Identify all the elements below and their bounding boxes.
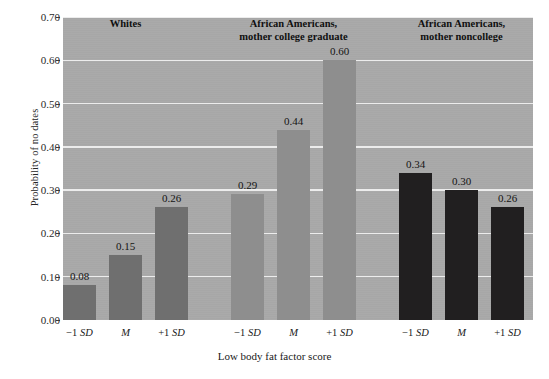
bar-value-label: 0.30 xyxy=(452,175,471,187)
bar xyxy=(491,207,524,320)
x-tick-label: +1 SD xyxy=(326,327,353,338)
y-tick-mark xyxy=(56,277,60,278)
bar xyxy=(277,130,310,320)
bar-value-label: 0.08 xyxy=(70,270,89,282)
bar-value-label: 0.34 xyxy=(406,158,425,170)
x-axis-title: Low body fat factor score xyxy=(0,350,549,362)
x-tick-label: M xyxy=(457,327,466,338)
bar xyxy=(63,285,96,320)
y-tick-mark xyxy=(56,320,60,321)
plot-area: 0.080.150.260.290.440.600.340.300.26 xyxy=(63,17,533,320)
bar-value-label: 0.44 xyxy=(284,115,303,127)
group-header: Whites xyxy=(110,17,142,30)
bar xyxy=(155,207,188,320)
bar xyxy=(323,60,356,320)
y-tick-mark xyxy=(56,190,60,191)
x-tick-label: +1 SD xyxy=(158,327,185,338)
group-header: African Americans, mother college gradua… xyxy=(239,17,347,43)
x-tick-label: M xyxy=(121,327,130,338)
bar-value-label: 0.15 xyxy=(116,240,135,252)
y-tick-label: 0.00 xyxy=(16,314,60,326)
bar xyxy=(109,255,142,320)
bar-value-label: 0.26 xyxy=(162,192,181,204)
bar-value-label: 0.60 xyxy=(330,45,349,57)
x-tick-label: +1 SD xyxy=(494,327,521,338)
x-tick-label: −1 SD xyxy=(66,327,93,338)
gridline xyxy=(63,60,533,61)
y-tick-label: 0.40 xyxy=(16,141,60,153)
bar-value-label: 0.29 xyxy=(238,179,257,191)
y-tick-label: 0.60 xyxy=(16,54,60,66)
group-header: African Americans, mother noncollege xyxy=(418,17,505,43)
bar xyxy=(399,173,432,320)
x-tick-label: −1 SD xyxy=(234,327,261,338)
y-tick-label: 0.50 xyxy=(16,98,60,110)
y-tick-label: 0.10 xyxy=(16,271,60,283)
bar xyxy=(445,190,478,320)
y-tick-label: 0.30 xyxy=(16,184,60,196)
y-tick-mark xyxy=(56,17,60,18)
gridline xyxy=(63,103,533,104)
y-tick-mark xyxy=(56,104,60,105)
y-tick-mark xyxy=(56,233,60,234)
bar-value-label: 0.26 xyxy=(498,192,517,204)
bar-chart-figure: Probability of no dates 0.000.100.200.30… xyxy=(0,0,549,379)
y-axis-tick-labels: 0.000.100.200.300.400.500.600.70 xyxy=(8,0,60,379)
x-tick-label: M xyxy=(289,327,298,338)
y-tick-label: 0.70 xyxy=(16,11,60,23)
x-tick-label: −1 SD xyxy=(402,327,429,338)
y-tick-mark xyxy=(56,147,60,148)
y-tick-mark xyxy=(56,60,60,61)
y-tick-label: 0.20 xyxy=(16,227,60,239)
bar xyxy=(231,194,264,320)
